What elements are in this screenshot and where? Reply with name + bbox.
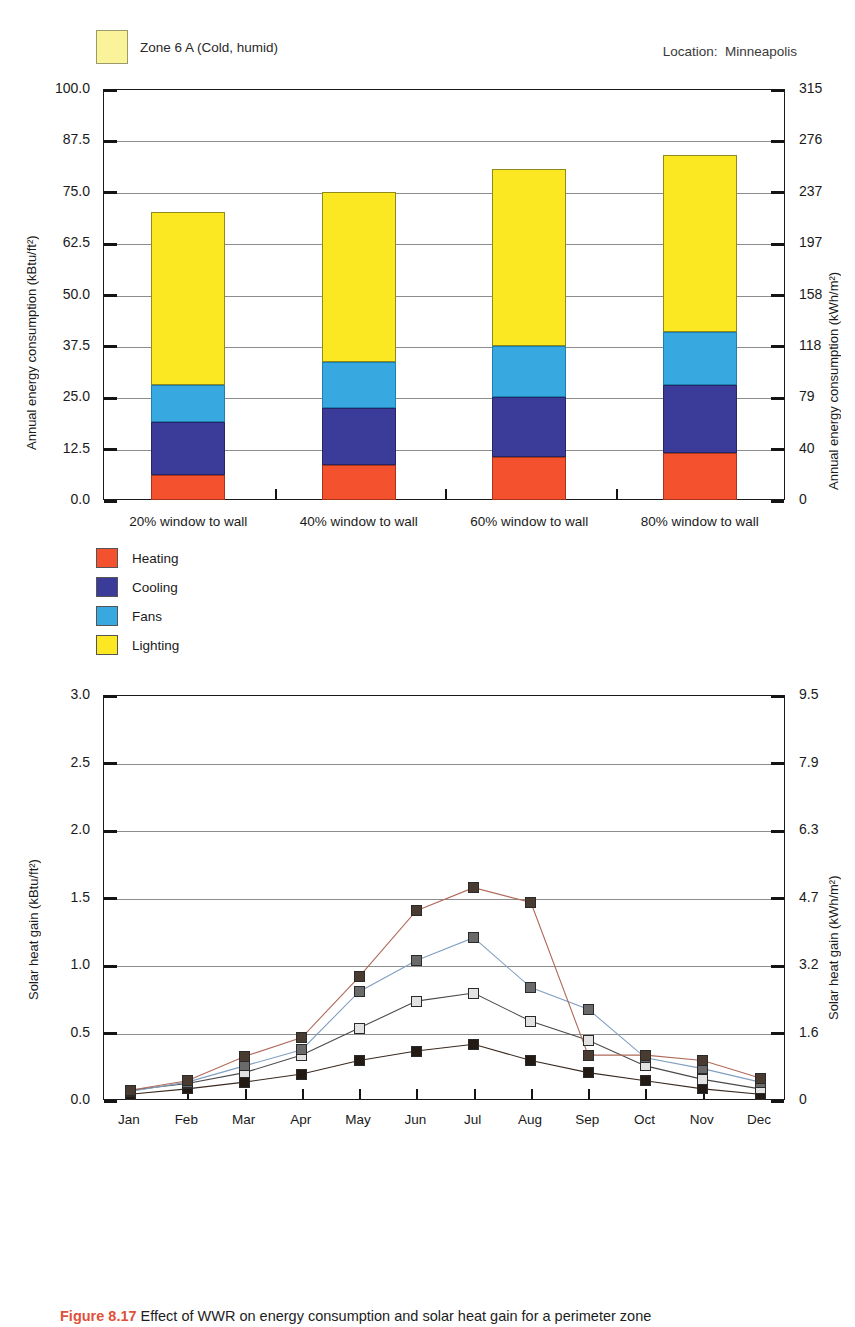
bar-segment-fans	[322, 362, 396, 407]
data-point-marker	[583, 1035, 594, 1046]
data-point-marker	[239, 1060, 250, 1071]
data-point-marker	[468, 932, 479, 943]
left-tick-label: 62.5	[20, 234, 90, 250]
bottom-chart-right-axis-title: Solar heat gain (kWh/m²)	[826, 780, 841, 1020]
right-tick-label: 6.3	[799, 821, 818, 837]
data-point-marker	[411, 905, 422, 916]
left-tick-label: 25.0	[20, 388, 90, 404]
left-tick-label: 1.5	[26, 889, 90, 905]
bar-segment-fans	[663, 332, 737, 385]
left-tick-label: 100.0	[20, 80, 90, 96]
right-tick-mark	[771, 191, 784, 194]
bottom-plot-area	[103, 695, 785, 1100]
solar-gain-lines	[104, 696, 786, 1101]
stacked-bar	[151, 89, 225, 500]
left-tick-mark	[104, 243, 117, 246]
bar-segment-cooling	[663, 385, 737, 453]
series-line	[130, 888, 760, 1090]
right-tick-label: 315	[799, 80, 822, 96]
data-point-marker	[468, 1039, 479, 1050]
top-chart-right-axis-title: Annual energy consumption (kWh/m²)	[826, 190, 841, 490]
legend-item: Fans	[96, 606, 179, 626]
data-point-marker	[640, 1050, 651, 1061]
left-tick-label: 2.0	[26, 821, 90, 837]
right-tick-mark	[771, 397, 784, 400]
data-point-marker	[182, 1075, 193, 1086]
right-tick-mark	[771, 243, 784, 246]
right-tick-mark	[771, 294, 784, 297]
right-tick-label: 3.2	[799, 956, 818, 972]
data-point-marker	[239, 1077, 250, 1088]
right-tick-mark	[771, 140, 784, 143]
month-label: Jul	[443, 1112, 503, 1127]
legend-item: Lighting	[96, 635, 179, 655]
zone-legend: Zone 6 A (Cold, humid)	[96, 30, 278, 64]
month-label: May	[328, 1112, 388, 1127]
series-line	[130, 938, 760, 1092]
left-tick-label: 87.5	[20, 131, 90, 147]
bar-segment-lighting	[663, 155, 737, 332]
series-line	[130, 993, 760, 1090]
energy-consumption-chart: Zone 6 A (Cold, humid) Location: Minneap…	[0, 0, 855, 660]
figure-caption-text: Effect of WWR on energy consumption and …	[141, 1308, 652, 1324]
series-line	[130, 1044, 760, 1094]
right-tick-label: 197	[799, 234, 822, 250]
data-point-marker	[354, 1023, 365, 1034]
legend-label: Lighting	[132, 638, 179, 653]
bar-segment-lighting	[151, 212, 225, 385]
data-point-marker	[697, 1055, 708, 1066]
left-tick-label: 75.0	[20, 183, 90, 199]
right-tick-mark	[771, 345, 784, 348]
month-label: Dec	[729, 1112, 789, 1127]
bottom-tick-mark	[275, 489, 277, 499]
data-point-marker	[354, 986, 365, 997]
legend-swatch	[96, 606, 118, 626]
data-point-marker	[583, 1067, 594, 1078]
left-tick-label: 2.5	[26, 754, 90, 770]
data-point-marker	[697, 1083, 708, 1094]
data-point-marker	[525, 1016, 536, 1027]
bar-segment-heating	[322, 465, 396, 500]
bar-segment-cooling	[322, 408, 396, 466]
left-tick-label: 12.5	[20, 440, 90, 456]
data-point-marker	[525, 1055, 536, 1066]
left-tick-label: 0.5	[26, 1024, 90, 1040]
month-label: Nov	[672, 1112, 732, 1127]
zone-color-swatch	[96, 30, 128, 64]
stacked-bar	[322, 89, 396, 500]
month-label: Jun	[385, 1112, 445, 1127]
left-tick-mark	[104, 140, 117, 143]
bottom-tick-mark	[616, 489, 618, 499]
left-tick-label: 1.0	[26, 956, 90, 972]
data-point-marker	[411, 1046, 422, 1057]
location-label: Location: Minneapolis	[663, 44, 797, 59]
right-tick-label: 237	[799, 183, 822, 199]
right-tick-mark	[771, 448, 784, 451]
right-tick-label: 79	[799, 388, 815, 404]
category-label: 60% window to wall	[444, 514, 615, 529]
data-point-marker	[354, 971, 365, 982]
legend-label: Fans	[132, 609, 162, 624]
right-tick-label: 158	[799, 286, 822, 302]
legend-swatch	[96, 577, 118, 597]
legend-label: Heating	[132, 551, 179, 566]
left-tick-mark	[104, 397, 117, 400]
right-tick-label: 4.7	[799, 889, 818, 905]
bar-segment-heating	[151, 475, 225, 500]
data-point-marker	[125, 1085, 136, 1096]
data-point-marker	[296, 1032, 307, 1043]
left-tick-label: 3.0	[26, 686, 90, 702]
bar-segment-fans	[151, 385, 225, 422]
left-tick-mark	[104, 89, 117, 92]
left-tick-label: 50.0	[20, 286, 90, 302]
right-tick-label: 7.9	[799, 754, 818, 770]
right-tick-label: 40	[799, 440, 815, 456]
data-point-marker	[640, 1075, 651, 1086]
legend-label: Cooling	[132, 580, 178, 595]
stacked-bar	[663, 89, 737, 500]
legend-swatch	[96, 548, 118, 568]
legend-item: Cooling	[96, 577, 179, 597]
category-label: 80% window to wall	[615, 514, 786, 529]
bar-segment-lighting	[492, 169, 566, 346]
legend-item: Heating	[96, 548, 179, 568]
